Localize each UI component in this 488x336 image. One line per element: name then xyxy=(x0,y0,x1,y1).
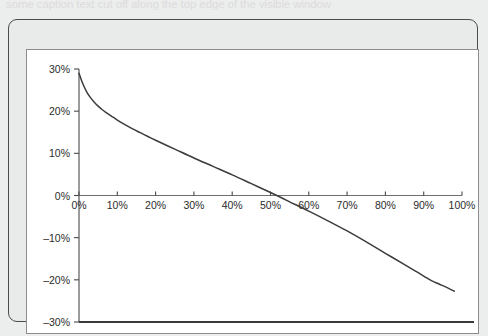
x-tick-label: 60% xyxy=(298,199,319,211)
x-tick-label: 80% xyxy=(375,199,396,211)
line-chart: 30%20%10%0%–10%–20%–30%0%10%20%30%40%50%… xyxy=(27,50,478,333)
x-tick-label: 100% xyxy=(449,199,476,211)
y-tick-label: 0% xyxy=(55,190,70,202)
y-tick-label: –30% xyxy=(43,316,70,328)
x-tick-label: 10% xyxy=(107,199,128,211)
x-tick-label: 50% xyxy=(260,199,281,211)
x-tick-label: 40% xyxy=(222,199,243,211)
x-tick-label: 20% xyxy=(145,199,166,211)
y-tick-label: 30% xyxy=(49,63,70,75)
y-tick-label: –10% xyxy=(43,232,70,244)
x-tick-label: 70% xyxy=(337,199,358,211)
y-tick-label: 10% xyxy=(49,147,70,159)
plot-panel: 30%20%10%0%–10%–20%–30%0%10%20%30%40%50%… xyxy=(26,49,479,334)
x-tick-label: 30% xyxy=(183,199,204,211)
figure-frame: 30%20%10%0%–10%–20%–30%0%10%20%30%40%50%… xyxy=(8,19,478,322)
x-tick-label: 0% xyxy=(71,199,86,211)
x-tick-label: 90% xyxy=(413,199,434,211)
clipped-header-text: some caption text cut off along the top … xyxy=(0,0,488,11)
y-tick-label: –20% xyxy=(43,274,70,286)
y-tick-label: 20% xyxy=(49,105,70,117)
data-curve-curve xyxy=(79,73,454,291)
